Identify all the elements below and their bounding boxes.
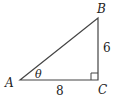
side-label-ac: 8	[56, 85, 64, 97]
right-angle-marker	[91, 73, 98, 80]
triangle-diagram: B 6 C 8 A θ	[0, 0, 116, 107]
vertex-label-c: C	[98, 84, 107, 96]
side-label-bc: 6	[103, 42, 111, 54]
vertex-label-b: B	[97, 3, 106, 15]
vertex-label-a: A	[5, 77, 14, 89]
triangle-abc	[20, 18, 98, 80]
angle-theta-label: θ	[35, 69, 42, 80]
